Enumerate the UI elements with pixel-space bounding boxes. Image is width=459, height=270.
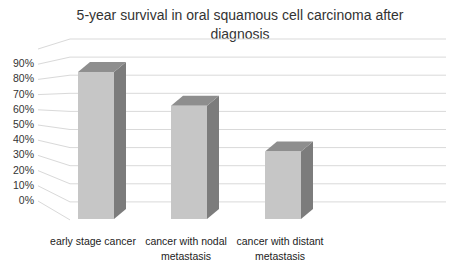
y-tick-label: 60% bbox=[13, 103, 34, 115]
gridline-diagonal bbox=[38, 155, 70, 165]
bar-front bbox=[265, 151, 301, 219]
y-tick-label: 50% bbox=[13, 118, 34, 130]
gridline-diagonal bbox=[38, 140, 70, 147]
category-label-line: cancer with distant bbox=[237, 235, 324, 247]
bar-front bbox=[171, 106, 207, 219]
y-tick-label: 0% bbox=[19, 194, 34, 206]
gridline-diagonal bbox=[38, 186, 70, 202]
bar-side bbox=[207, 96, 219, 219]
y-tick-label: 10% bbox=[13, 179, 34, 191]
category-label-line: cancer with nodal bbox=[145, 235, 227, 247]
chart-plot-area: 0%10%20%30%40%50%60%70%80%90% bbox=[0, 0, 459, 270]
bar-side bbox=[114, 62, 126, 219]
category-label-line: metastasis bbox=[161, 250, 211, 262]
y-tick-label: 70% bbox=[13, 88, 34, 100]
floor-diagonal bbox=[38, 201, 70, 220]
gridline-diagonal bbox=[38, 110, 70, 112]
category-label-line: metastasis bbox=[255, 250, 305, 262]
bar-front bbox=[78, 72, 114, 219]
y-tick-label: 40% bbox=[13, 133, 34, 145]
y-tick-label: 20% bbox=[13, 164, 34, 176]
category-label-distant: cancer with distant metastasis bbox=[225, 234, 335, 264]
category-label-line: early stage cancer bbox=[50, 235, 136, 247]
gridline-diagonal bbox=[38, 57, 70, 64]
y-tick-label: 90% bbox=[13, 57, 34, 69]
y-tick-label: 30% bbox=[13, 148, 34, 160]
gridline-diagonal bbox=[38, 75, 70, 79]
gridline-diagonal bbox=[38, 93, 70, 94]
y-tick-label: 80% bbox=[13, 72, 34, 84]
bar-side bbox=[301, 141, 313, 219]
gridline-diagonal bbox=[38, 39, 70, 49]
gridline-diagonal bbox=[38, 125, 70, 130]
gridline-diagonal bbox=[38, 171, 70, 184]
